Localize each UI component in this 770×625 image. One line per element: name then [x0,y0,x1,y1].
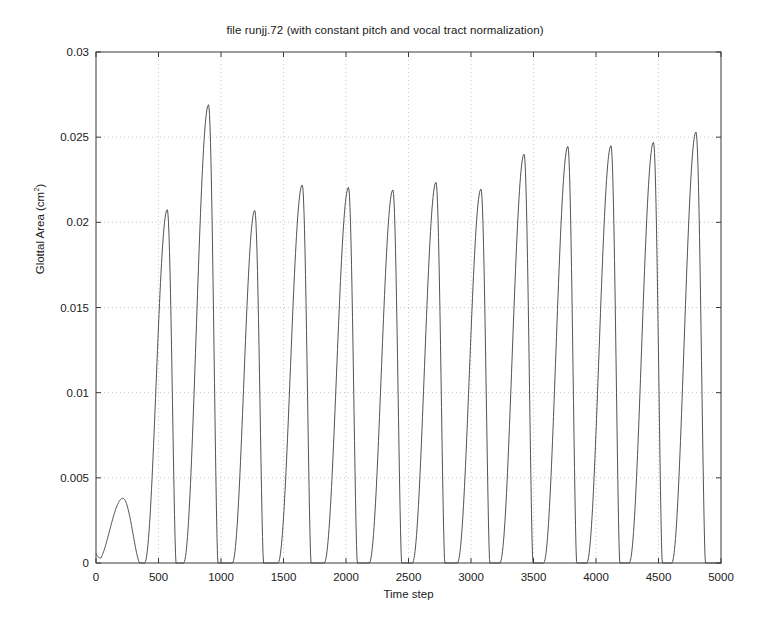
svg-text:1000: 1000 [208,571,234,583]
svg-text:0.01: 0.01 [67,387,89,399]
svg-text:5000: 5000 [708,571,734,583]
x-axis-label: Time step [96,588,721,600]
plot-area: 0500100015002000250030003500400045005000… [0,0,770,625]
svg-text:0.03: 0.03 [67,46,89,58]
svg-text:4000: 4000 [583,571,609,583]
svg-text:0: 0 [83,557,89,569]
y-axis-label-tail: ) [34,184,46,188]
svg-text:3000: 3000 [458,571,484,583]
figure-canvas: file runjj.72 (with constant pitch and v… [0,0,770,625]
svg-text:0.015: 0.015 [60,302,89,314]
svg-text:0.025: 0.025 [60,131,89,143]
y-axis-label-exponent: 2 [32,187,41,191]
gridlines [96,52,721,563]
svg-text:0.02: 0.02 [67,216,89,228]
data-series-glottal-area [96,105,721,563]
svg-text:500: 500 [149,571,168,583]
svg-text:2000: 2000 [333,571,359,583]
y-axis-label: Glottal Area (cm2) [32,129,46,329]
svg-text:0: 0 [93,571,99,583]
svg-text:4500: 4500 [646,571,672,583]
svg-text:0.005: 0.005 [60,472,89,484]
svg-text:2500: 2500 [396,571,422,583]
svg-text:3500: 3500 [521,571,547,583]
y-axis-label-text: Glottal Area (cm [34,192,46,274]
svg-text:1500: 1500 [271,571,297,583]
